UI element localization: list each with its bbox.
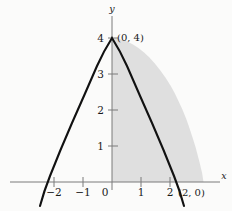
x-tick-label-0: 0 [102, 186, 109, 198]
y-tick-label-3: 3 [97, 68, 104, 80]
x-tick-label--2: −2 [46, 186, 61, 198]
shaded-area [112, 38, 204, 182]
x-tick-label--1: −1 [75, 186, 90, 198]
x-axis-label: x [221, 170, 227, 181]
x-tick-label-2: 2 [167, 186, 174, 198]
y-intercept-label: (0, 4) [117, 32, 144, 43]
x-tick-label-1: 1 [138, 186, 145, 198]
y-tick-label-2: 2 [97, 104, 104, 116]
parabola-figure: −2 −1 0 1 2 1 2 3 4 y x (0, 4) (2, 0) [0, 0, 232, 211]
x-intercept-label: (2, 0) [178, 187, 205, 198]
y-tick-label-1: 1 [97, 140, 104, 152]
y-axis-label: y [108, 3, 115, 14]
plot-canvas: −2 −1 0 1 2 1 2 3 4 y x (0, 4) (2, 0) [0, 0, 232, 211]
y-tick-label-4: 4 [97, 32, 104, 44]
